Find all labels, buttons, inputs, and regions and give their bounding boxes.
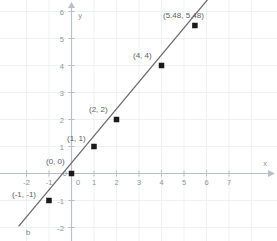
y-tick-label: 4: [60, 62, 64, 71]
y-tick-label: 3: [60, 89, 64, 98]
data-point-label: (-1, -1): [12, 190, 36, 199]
y-tick-label: -1: [57, 197, 64, 206]
coordinate-plane-graph: -2 -1 0 1 2 3 4 5 6 7 6 5 4 3 2 1 0 -1 -…: [0, 0, 277, 241]
x-tick-label: 4: [159, 178, 163, 187]
y-tick-label: 1: [60, 143, 64, 152]
y-axis-arrow-icon: [68, 2, 75, 8]
plot-canvas: -2 -1 0 1 2 3 4 5 6 7 6 5 4 3 2 1 0 -1 -…: [0, 0, 277, 241]
data-point-label: (4, 4): [133, 51, 152, 60]
data-point-marker: [47, 198, 52, 203]
x-tick-label: 2: [114, 178, 118, 187]
y-tick-label: 6: [60, 8, 64, 17]
x-tick-label: 6: [204, 178, 208, 187]
y-tick-label: 5: [60, 35, 64, 44]
x-tick-label: 0: [76, 178, 80, 187]
line-b-label: b: [26, 228, 30, 237]
x-axis-tick-labels: -2 -1 0 1 2 3 4 5 6 7: [23, 178, 231, 187]
grid-lines: [0, 0, 277, 241]
x-tick-label: 7: [227, 178, 231, 187]
x-tick-label: 3: [137, 178, 141, 187]
data-point-marker: [159, 63, 164, 68]
y-tick-label: -2: [57, 224, 64, 233]
x-tick-label: 1: [92, 178, 96, 187]
data-point-labels: (-1, -1) (0, 0) (1, 1) (2, 2) (4, 4) (5.…: [12, 11, 204, 199]
x-axis: [0, 170, 275, 177]
x-tick-label: -2: [23, 178, 30, 187]
x-tick-label: 5: [182, 178, 186, 187]
y-axis: [68, 2, 75, 241]
data-points: [47, 23, 198, 203]
line-b: [19, 0, 237, 226]
x-axis-label: x: [263, 159, 267, 168]
data-point-label: (5.48, 5.48): [163, 11, 204, 20]
y-axis-label: y: [78, 11, 82, 20]
x-tick-label: -1: [46, 178, 53, 187]
x-axis-arrow-icon: [268, 170, 275, 177]
data-point-marker: [192, 23, 197, 28]
data-point-label: (1, 1): [67, 134, 86, 143]
data-point-marker: [69, 171, 74, 176]
data-point-label: (0, 0): [46, 157, 65, 166]
y-tick-label: 2: [60, 116, 64, 125]
data-point-marker: [114, 117, 119, 122]
data-point-marker: [92, 144, 97, 149]
data-point-label: (2, 2): [89, 105, 108, 114]
